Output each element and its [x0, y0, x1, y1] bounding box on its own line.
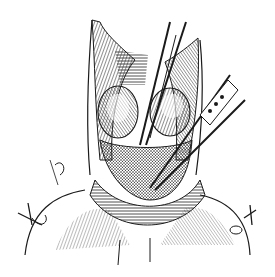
shoulders-outline [25, 190, 250, 265]
suture-left [18, 203, 46, 225]
suture-right [230, 205, 256, 234]
surgical-illustration [0, 0, 275, 277]
suture-upper-left [50, 160, 64, 185]
illustration-drawing [0, 0, 275, 277]
deep-tissue-shading [115, 50, 148, 85]
